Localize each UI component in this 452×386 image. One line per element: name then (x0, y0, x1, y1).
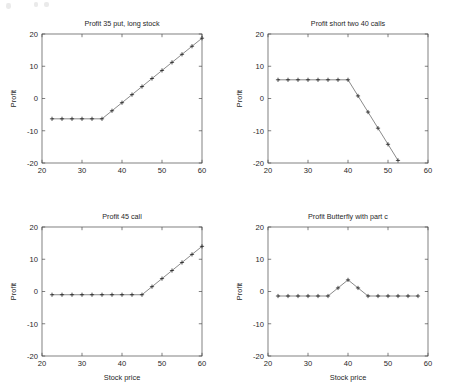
x-tick-label: 20 (264, 166, 272, 175)
y-tick-label: 20 (256, 223, 264, 232)
x-tick-label: 40 (118, 166, 126, 175)
x-tick-label: 20 (38, 166, 46, 175)
y-tick-label: 20 (256, 30, 264, 39)
plot-svg: Profit Butterfly with part c2030405060-2… (226, 193, 452, 386)
x-axis-label: Stock price (330, 373, 367, 382)
y-tick-label: 0 (34, 94, 38, 103)
x-tick-label: 60 (198, 359, 206, 368)
data-point-markers (276, 78, 400, 163)
data-series-line (278, 280, 418, 296)
x-tick-label: 30 (78, 166, 86, 175)
x-tick-label: 30 (304, 166, 312, 175)
y-axis-label: Profit (9, 90, 18, 107)
y-tick-label: -20 (253, 352, 264, 361)
figure-canvas: Profit 35 put, long stock2030405060-20-1… (0, 0, 452, 386)
x-tick-label: 50 (158, 166, 166, 175)
y-tick-label: 10 (256, 255, 264, 264)
plot-title: Profit 35 put, long stock (84, 19, 160, 28)
y-tick-label: -20 (253, 159, 264, 168)
x-tick-label: 50 (384, 166, 392, 175)
y-tick-label: 0 (34, 287, 38, 296)
plot-title: Profit short two 40 calls (311, 19, 386, 28)
axes-frame (42, 34, 202, 163)
y-tick-label: -10 (253, 320, 264, 329)
plot-svg: Profit 45 call2030405060-20-1001020Profi… (0, 193, 226, 386)
x-tick-label: 20 (264, 359, 272, 368)
x-tick-label: 40 (344, 359, 352, 368)
y-tick-label: -10 (27, 320, 38, 329)
y-axis-label: Profit (235, 90, 244, 107)
y-tick-label: -10 (253, 127, 264, 136)
chart-panel-profit-butterfly-with-part-c: Profit Butterfly with part c2030405060-2… (226, 193, 452, 386)
data-point-markers (50, 244, 204, 297)
x-tick-label: 20 (38, 359, 46, 368)
x-tick-label: 40 (118, 359, 126, 368)
y-tick-label: -10 (27, 127, 38, 136)
chart-panel-profit-short-two-40-calls: Profit short two 40 calls2030405060-20-1… (226, 0, 452, 193)
y-tick-label: 20 (30, 30, 38, 39)
x-tick-label: 50 (384, 359, 392, 368)
data-point-markers (276, 278, 420, 298)
y-tick-label: 10 (256, 62, 264, 71)
axes-frame (42, 227, 202, 356)
x-axis-label: Stock price (104, 373, 141, 382)
x-tick-label: 50 (158, 359, 166, 368)
x-tick-label: 60 (424, 166, 432, 175)
plot-title: Profit Butterfly with part c (308, 212, 388, 221)
x-tick-label: 40 (344, 166, 352, 175)
data-point-markers (50, 36, 204, 121)
plot-title: Profit 45 call (102, 212, 142, 221)
data-series-line (52, 246, 202, 294)
y-tick-label: 10 (30, 62, 38, 71)
chart-panel-profit-45-call: Profit 45 call2030405060-20-1001020Profi… (0, 193, 226, 386)
chart-panel-profit-35-put-long-stock: Profit 35 put, long stock2030405060-20-1… (0, 0, 226, 193)
axes-frame (268, 34, 428, 163)
data-series-line (278, 80, 398, 161)
plot-svg: Profit 35 put, long stock2030405060-20-1… (0, 0, 226, 193)
plot-svg: Profit short two 40 calls2030405060-20-1… (226, 0, 452, 193)
y-axis-label: Profit (9, 283, 18, 300)
x-tick-label: 30 (304, 359, 312, 368)
y-tick-label: 0 (260, 94, 264, 103)
y-tick-label: 0 (260, 287, 264, 296)
y-tick-label: -20 (27, 159, 38, 168)
x-tick-label: 60 (198, 166, 206, 175)
data-series-line (52, 38, 202, 119)
y-tick-label: -20 (27, 352, 38, 361)
x-tick-label: 30 (78, 359, 86, 368)
axes-frame (268, 227, 428, 356)
y-axis-label: Profit (235, 283, 244, 300)
x-tick-label: 60 (424, 359, 432, 368)
y-tick-label: 20 (30, 223, 38, 232)
y-tick-label: 10 (30, 255, 38, 264)
